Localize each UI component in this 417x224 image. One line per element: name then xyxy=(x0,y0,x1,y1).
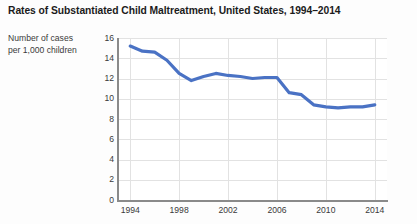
x-tick-label: 1998 xyxy=(164,205,194,215)
plot-area xyxy=(118,38,387,200)
line-series-svg xyxy=(118,38,387,200)
x-axis-spine xyxy=(117,200,388,202)
x-tick-label: 1994 xyxy=(115,205,145,215)
x-tick-label: 2014 xyxy=(360,205,390,215)
x-tick-label: 2002 xyxy=(213,205,243,215)
chart-figure: Rates of Substantiated Child Maltreatmen… xyxy=(0,0,417,224)
y-axis-spine xyxy=(117,38,119,201)
x-tick-label: 2010 xyxy=(311,205,341,215)
x-tick-label: 2006 xyxy=(262,205,292,215)
data-line xyxy=(130,46,375,108)
